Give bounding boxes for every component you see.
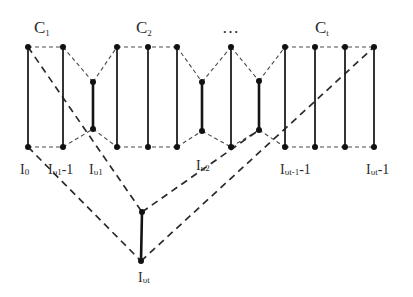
graph-nodes (25, 44, 377, 264)
cluster-label-ellipsis: … (222, 18, 239, 37)
top-dashed-chain (28, 47, 374, 82)
cluster-label-c2: C2 (136, 18, 152, 38)
cluster-label-ct: Ct (315, 18, 329, 38)
vertex-label-iv1: Iυ1 (89, 162, 103, 177)
vertex-label-ivt: Iυt (138, 270, 150, 285)
vertex-label-ivt-1-minus-1: Iυt-1-1 (280, 162, 311, 177)
vertex-label-i0: I0 (20, 162, 30, 177)
vertex-label-iv1-minus-1: Iυ1-1 (48, 162, 73, 177)
cluster-label-c1: C1 (34, 18, 50, 38)
vertex-label-iv2: Iυ2 (196, 158, 210, 173)
graph-diagram: C1 C2 … Ct I0 Iυ1-1 Iυ1 Iυ2 Iυt-1-1 Iυt-… (0, 0, 413, 297)
vertex-label-ivt-minus-1: Iυt-1 (366, 162, 389, 177)
solid-columns (28, 47, 374, 261)
long-dashed-connectors (28, 47, 374, 261)
